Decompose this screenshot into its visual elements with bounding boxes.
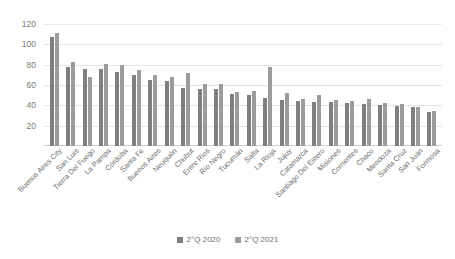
bar bbox=[378, 105, 382, 146]
bar bbox=[153, 75, 157, 146]
plot-area bbox=[44, 24, 442, 146]
bar-group bbox=[325, 24, 341, 146]
bar bbox=[395, 106, 399, 146]
bar-group bbox=[210, 24, 226, 146]
bar bbox=[198, 89, 202, 146]
bar bbox=[252, 91, 256, 146]
legend-swatch-icon bbox=[177, 237, 183, 243]
bar bbox=[115, 72, 119, 146]
bar bbox=[170, 77, 174, 146]
bar bbox=[235, 92, 239, 146]
y-axis-tick: 80 bbox=[27, 60, 36, 69]
bar bbox=[165, 81, 169, 146]
bar bbox=[50, 37, 54, 146]
bar bbox=[301, 99, 305, 146]
bar-group bbox=[145, 24, 161, 146]
chart-legend: 2°Q 20202°Q 2021 bbox=[0, 236, 455, 244]
bar bbox=[55, 33, 59, 146]
bar bbox=[132, 75, 136, 146]
bar bbox=[66, 67, 70, 146]
bar-group bbox=[46, 24, 62, 146]
bar bbox=[432, 111, 436, 146]
x-axis: Buenos Aires CitySan LuisTierra Del Fueg… bbox=[44, 147, 442, 227]
legend-item[interactable]: 2°Q 2020 bbox=[177, 236, 221, 244]
bar-group bbox=[391, 24, 407, 146]
bar-group bbox=[342, 24, 358, 146]
bar bbox=[214, 89, 218, 146]
legend-label: 2°Q 2021 bbox=[245, 236, 279, 244]
bar bbox=[104, 64, 108, 146]
bar bbox=[362, 104, 366, 146]
bar bbox=[120, 65, 124, 146]
bar bbox=[285, 93, 289, 146]
bar bbox=[71, 62, 75, 146]
bar-group bbox=[276, 24, 292, 146]
bar bbox=[247, 95, 251, 146]
bar-group bbox=[161, 24, 177, 146]
y-axis-tick: 60 bbox=[27, 81, 36, 90]
bar-series-container bbox=[44, 24, 442, 146]
bar-group bbox=[112, 24, 128, 146]
bar bbox=[181, 88, 185, 146]
bar-group bbox=[62, 24, 78, 146]
bar bbox=[280, 100, 284, 146]
bar-chart: 20406080100120 Buenos Aires CitySan Luis… bbox=[0, 0, 455, 259]
legend-swatch-icon bbox=[235, 237, 241, 243]
bar bbox=[186, 73, 190, 146]
bar bbox=[334, 100, 338, 146]
bar-group bbox=[407, 24, 423, 146]
legend-item[interactable]: 2°Q 2021 bbox=[235, 236, 279, 244]
bar bbox=[345, 103, 349, 146]
bar bbox=[367, 99, 371, 146]
bar bbox=[427, 112, 431, 146]
bar bbox=[317, 95, 321, 146]
y-axis-tick: 100 bbox=[22, 40, 36, 49]
y-axis-tick: 20 bbox=[27, 121, 36, 130]
y-axis-tick: 120 bbox=[22, 20, 36, 29]
bar bbox=[88, 77, 92, 146]
legend-label: 2°Q 2020 bbox=[187, 236, 221, 244]
bar bbox=[137, 70, 141, 146]
bar bbox=[312, 102, 316, 146]
bar-group bbox=[128, 24, 144, 146]
bar-group bbox=[227, 24, 243, 146]
bar bbox=[99, 69, 103, 146]
bar-group bbox=[309, 24, 325, 146]
bar-group bbox=[79, 24, 95, 146]
bar-group bbox=[243, 24, 259, 146]
bar-group bbox=[358, 24, 374, 146]
bar bbox=[263, 98, 267, 146]
bar-group bbox=[292, 24, 308, 146]
bar bbox=[350, 101, 354, 146]
bar bbox=[203, 84, 207, 146]
bar bbox=[416, 107, 420, 146]
y-axis: 20406080100120 bbox=[0, 24, 40, 146]
bar-group bbox=[194, 24, 210, 146]
bar-group bbox=[177, 24, 193, 146]
bar bbox=[268, 67, 272, 146]
bar bbox=[148, 80, 152, 146]
bar-group bbox=[374, 24, 390, 146]
bar bbox=[411, 107, 415, 146]
bar bbox=[383, 103, 387, 146]
bar bbox=[329, 102, 333, 146]
bar bbox=[400, 104, 404, 146]
bar-group bbox=[259, 24, 275, 146]
bar-group bbox=[95, 24, 111, 146]
bar bbox=[219, 84, 223, 146]
y-axis-tick: 40 bbox=[27, 101, 36, 110]
bar bbox=[296, 101, 300, 146]
bar bbox=[230, 94, 234, 146]
bar bbox=[83, 69, 87, 146]
bar-group bbox=[424, 24, 440, 146]
